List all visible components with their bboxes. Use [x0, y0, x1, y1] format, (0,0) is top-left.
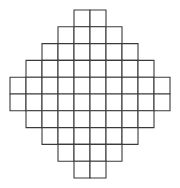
grid-cell [90, 144, 106, 161]
grid-cell [58, 111, 74, 128]
grid-cell [74, 27, 90, 44]
grid-cell [42, 77, 58, 94]
grid-cell [58, 27, 74, 44]
grid-cell [90, 60, 106, 77]
grid-cell [138, 94, 154, 111]
grid-cell [58, 60, 74, 77]
grid-cell [26, 94, 42, 111]
grid-cell [74, 161, 90, 178]
grid-cell [122, 77, 138, 94]
grid-cell [74, 10, 90, 27]
grid-cell [154, 94, 170, 111]
grid-cell [138, 77, 154, 94]
grid-cell [58, 144, 74, 161]
grid-cell [106, 128, 122, 145]
grid-cell [106, 77, 122, 94]
grid-cell [122, 94, 138, 111]
grid-cell [42, 94, 58, 111]
grid-cell [106, 44, 122, 61]
grid-cell [138, 111, 154, 128]
grid-cell [26, 77, 42, 94]
grid-cell [42, 44, 58, 61]
grid-cell [10, 94, 26, 111]
grid-cell [74, 44, 90, 61]
grid-cell [10, 77, 26, 94]
grid-cell [138, 60, 154, 77]
grid-cell [90, 27, 106, 44]
figure-container [0, 0, 180, 188]
grid-cell [122, 111, 138, 128]
grid-cell [74, 111, 90, 128]
grid-cell [106, 60, 122, 77]
grid-cell [90, 10, 106, 27]
grid-cell [42, 111, 58, 128]
grid-cell [26, 60, 42, 77]
grid-cell [90, 44, 106, 61]
grid-cell [58, 77, 74, 94]
grid-cell [74, 128, 90, 145]
grid-cell [122, 60, 138, 77]
grid-cell [42, 60, 58, 77]
grid-cell [106, 27, 122, 44]
grid-cell [58, 94, 74, 111]
grid-cell [106, 94, 122, 111]
grid-cell [74, 94, 90, 111]
grid-cell [106, 144, 122, 161]
grid-cell [74, 77, 90, 94]
grid-cell [90, 94, 106, 111]
grid-cell [74, 60, 90, 77]
grid-cell [90, 111, 106, 128]
grid-cell [58, 128, 74, 145]
grid-cell [42, 128, 58, 145]
grid-cell [154, 77, 170, 94]
grid-cell [122, 44, 138, 61]
grid-cell [58, 44, 74, 61]
grid-cell [90, 161, 106, 178]
grid-cell [106, 111, 122, 128]
grid-cell [90, 128, 106, 145]
grid-cell [122, 128, 138, 145]
grid-cell [90, 77, 106, 94]
stepped-diamond-grid-figure [0, 0, 180, 188]
grid-cell [26, 111, 42, 128]
grid-cell [74, 144, 90, 161]
